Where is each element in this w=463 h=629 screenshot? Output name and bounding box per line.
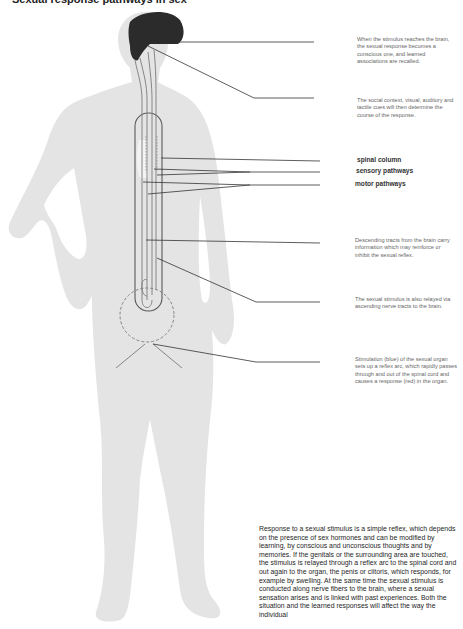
label-sensory-pathways: sensory pathways	[356, 167, 413, 174]
body-silhouette	[9, 12, 234, 622]
annotation-reflex-arc: Stimulation (blue) of the sexual organ s…	[355, 356, 457, 386]
annotation-ascending-tracts: The sexual stimulus is also relayed via …	[355, 296, 451, 311]
annotation-social-context: The social context, visual, auditory and…	[357, 97, 457, 119]
label-spinal-column: spinal column	[357, 156, 401, 163]
body-paragraph: Response to a sexual stimulus is a simpl…	[259, 525, 459, 620]
label-motor-pathways: motor pathways	[355, 180, 406, 187]
annotation-descending-tracts: Descending tracts from the brain carry i…	[355, 237, 455, 259]
annotation-brain: When the stimulus reaches the brain, the…	[357, 36, 457, 66]
